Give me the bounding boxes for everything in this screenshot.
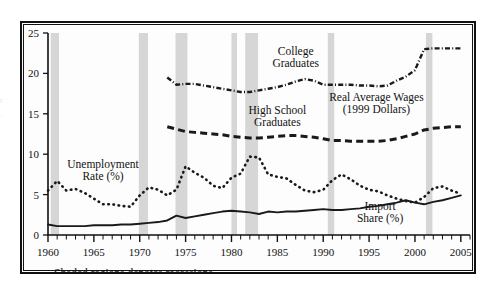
high-school-graduates-label-line: Graduates [254,116,301,128]
real-average-wages-label-line: (1999 Dollars) [343,103,411,116]
x-axis-tick-label: 1965 [83,246,106,258]
real-average-wages-label-line: Real Average Wages [329,91,424,104]
recession-2001 [426,33,432,235]
high-school-graduates-label-line: High School [248,104,306,117]
y-axis-tick-label: 5 [34,189,40,201]
page-bleed-artifact: r [0,95,3,105]
page-bleed-artifact-2: . [0,108,2,118]
high-school-graduates-label: High SchoolGraduates [248,104,306,129]
recession-1990-1991 [328,33,334,235]
y-axis-tick-label: 25 [28,27,40,39]
y-tick-labels: 0510152025 [28,27,40,241]
recession-1969-1970 [139,33,148,235]
x-axis-tick-label: 1980 [220,246,243,258]
real-average-wages-label: Real Average Wages(1999 Dollars) [329,91,424,117]
y-axis-tick-label: 20 [28,67,40,79]
recession-1980 [231,33,237,235]
unemployment-rate-label-line: Unemployment [67,158,139,171]
x-axis-tick-label: 1960 [37,246,60,258]
axis-lines [48,33,470,235]
unemployment-rate-label-line: Rate (%) [82,170,123,183]
import-share-label-line: Import [364,200,396,213]
x-axis-tick-label: 1995 [358,246,381,258]
figure-root: r . 0510152025 1960196519701975198019851… [0,0,498,295]
x-axis-tick-label: 1970 [129,246,152,258]
x-axis-tick-label: 1990 [312,246,335,258]
x-tick-labels: 1960196519701975198019851990199520002005 [37,246,472,258]
y-axis-tick-label: 15 [28,108,40,120]
import-share-label-line: Share (%) [357,212,403,225]
x-axis-tick-label: 2000 [404,246,427,258]
figure-caption: Shaded regions denotes recessions. [54,267,216,274]
x-axis-tick-label: 1975 [175,246,198,258]
y-axis-tick-label: 0 [34,229,40,241]
series-line-college-graduates [167,48,461,92]
y-axis-tick-label: 10 [28,148,40,160]
college-graduates-label-line: Graduates [272,57,319,69]
x-axis-tick-label: 1985 [266,246,289,258]
chart-canvas: 0510152025 19601965197019751980198519901… [20,21,476,274]
college-graduates-label: CollegeGraduates [272,45,319,70]
recession-1973-1975 [176,33,188,235]
recession-1960-1961 [51,33,59,235]
caption-label: Shaded regions denotes recessions. [54,267,216,274]
unemployment-rate-label: UnemploymentRate (%) [67,158,139,184]
import-share-label: ImportShare (%) [357,200,403,226]
college-graduates-label-line: College [278,45,314,58]
x-axis-tick-label: 2005 [450,246,473,258]
series-line-high-school-graduates [167,127,461,142]
recession-1981-1982 [245,33,258,235]
